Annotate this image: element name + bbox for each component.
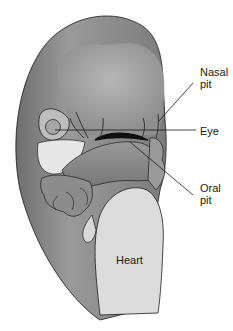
label-eye: Eye: [200, 125, 219, 137]
embryo-illustration: [0, 0, 233, 331]
heart-shape: [95, 188, 163, 315]
eye-lens: [46, 120, 61, 135]
frontonasal-prominence: [58, 43, 165, 135]
label-heart: Heart: [116, 254, 143, 266]
label-oral-pit: Oral pit: [200, 182, 221, 206]
label-nasal-pit: Nasal pit: [200, 66, 228, 90]
